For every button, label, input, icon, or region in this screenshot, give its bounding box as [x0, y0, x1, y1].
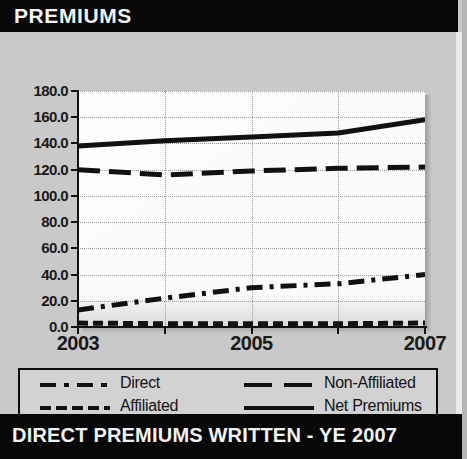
series-lines — [78, 91, 425, 327]
page-right-edge — [462, 0, 467, 459]
chart-page: PREMIUMS 180.0160.0140.0120.0100.080.060… — [0, 0, 467, 459]
y-axis-labels: 180.0160.0140.0120.0100.080.060.040.020.… — [2, 32, 68, 332]
legend-label-net-premiums: Net Premiums — [324, 397, 422, 415]
y-axis-tick — [71, 90, 79, 92]
y-axis-line — [77, 90, 79, 328]
x-axis-tick-label: 2005 — [212, 332, 292, 355]
series-line-non-affiliated — [78, 167, 425, 175]
y-axis-tick-label: 120.0 — [12, 161, 68, 178]
y-axis-tick — [71, 169, 79, 171]
y-axis-tick-label: 140.0 — [12, 134, 68, 151]
plot-wrapper: 180.0160.0140.0120.0100.080.060.040.020.… — [0, 32, 456, 332]
x-axis-tick-label: 2003 — [38, 332, 118, 355]
legend-label-direct: Direct — [120, 374, 160, 392]
title-bar: PREMIUMS — [0, 0, 458, 32]
y-axis-tick-label: 60.0 — [12, 239, 68, 256]
y-axis-tick — [71, 247, 79, 249]
series-line-direct — [78, 275, 425, 310]
y-axis-tick — [71, 142, 79, 144]
y-axis-tick-label: 180.0 — [12, 82, 68, 99]
y-axis-tick — [71, 274, 79, 276]
y-axis-tick-label: 80.0 — [12, 213, 68, 230]
y-axis-tick — [71, 221, 79, 223]
y-axis-tick-label: 40.0 — [12, 266, 68, 283]
plot-right-shadow — [425, 95, 432, 331]
series-line-net-premiums — [78, 120, 425, 146]
x-axis-tick — [337, 326, 339, 334]
x-axis-tick — [164, 326, 166, 334]
y-axis-tick-label: 160.0 — [12, 108, 68, 125]
series-line-affiliated — [78, 323, 425, 324]
legend-label-affiliated: Affiliated — [120, 397, 178, 415]
y-axis-tick-label: 100.0 — [12, 187, 68, 204]
x-axis-tick-label: 2007 — [385, 332, 465, 355]
y-axis-tick — [71, 116, 79, 118]
bottom-banner: DIRECT PREMIUMS WRITTEN - YE 2007 — [0, 414, 462, 459]
bottom-banner-text: DIRECT PREMIUMS WRITTEN - YE 2007 — [12, 424, 397, 447]
y-axis-tick-label: 20.0 — [12, 292, 68, 309]
y-axis-tick — [71, 300, 79, 302]
legend-swatch-non-affiliated — [242, 374, 316, 396]
chart-panel: 180.0160.0140.0120.0100.080.060.040.020.… — [0, 32, 456, 414]
page-title: PREMIUMS — [14, 4, 132, 28]
legend-swatch-direct — [38, 374, 112, 396]
legend-label-non-affiliated: Non-Affiliated — [324, 374, 416, 392]
y-axis-tick — [71, 195, 79, 197]
